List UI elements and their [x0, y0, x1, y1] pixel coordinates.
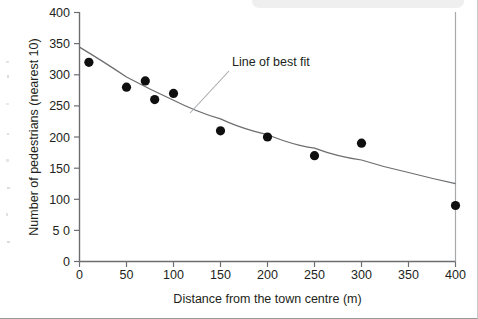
x-tick-label-150: 150	[210, 268, 231, 282]
page-frame: 400 350 300 250 200 150 100 5 0 0	[0, 0, 478, 319]
x-axis-tick-labels: 0 50 100 150 200 250 300 350 400	[76, 268, 466, 282]
data-point	[263, 132, 272, 141]
y-tick-label-150: 150	[49, 162, 70, 176]
x-tick-label-50: 50	[120, 268, 134, 282]
x-tick-label-0: 0	[76, 268, 83, 282]
y-tick-label-0: 0	[63, 255, 70, 269]
x-axis-ticks	[80, 262, 456, 268]
data-point	[122, 83, 131, 92]
data-point	[141, 76, 150, 85]
x-tick-label-300: 300	[351, 268, 372, 282]
y-tick-label-200: 200	[49, 131, 70, 145]
line-of-best-fit-label: Line of best fit	[232, 55, 310, 69]
y-tick-label-400: 400	[49, 6, 70, 20]
x-tick-label-400: 400	[445, 268, 466, 282]
y-axis-tick-labels: 400 350 300 250 200 150 100 5 0 0	[49, 6, 70, 269]
x-tick-label-200: 200	[257, 268, 278, 282]
y-tick-label-100: 100	[49, 193, 70, 207]
scatter-chart: 400 350 300 250 200 150 100 5 0 0	[0, 0, 478, 319]
y-tick-label-250: 250	[49, 99, 70, 113]
x-axis-title: Distance from the town centre (m)	[173, 292, 361, 306]
data-point	[357, 139, 366, 148]
x-tick-label-100: 100	[163, 268, 184, 282]
x-tick-label-250: 250	[304, 268, 325, 282]
annotation-leader-line	[190, 71, 229, 113]
data-point	[451, 201, 460, 210]
y-axis-ticks	[74, 13, 80, 262]
x-tick-label-350: 350	[398, 268, 419, 282]
data-points	[84, 58, 460, 210]
data-point	[84, 58, 93, 67]
data-point	[216, 126, 225, 135]
data-point	[169, 89, 178, 98]
y-axis-title: Number of pedestrians (nearest 10)	[27, 38, 41, 235]
y-tick-label-300: 300	[49, 68, 70, 82]
y-tick-label-50: 5 0	[53, 224, 70, 238]
chart-svg: 400 350 300 250 200 150 100 5 0 0	[0, 0, 478, 319]
data-point	[150, 95, 159, 104]
y-tick-label-350: 350	[49, 37, 70, 51]
data-point	[310, 151, 319, 160]
